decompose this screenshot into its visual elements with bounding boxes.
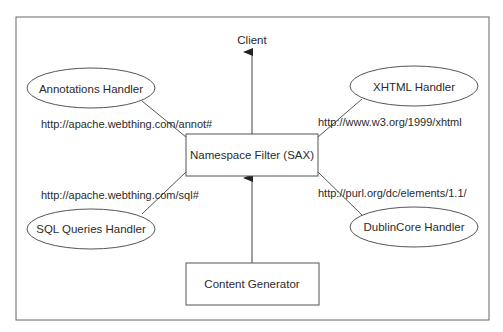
dublincore-handler-node: DublinCore Handler [350, 207, 478, 247]
sql-namespace-url: http://apache.webthing.com/sql# [41, 189, 200, 201]
dublincore-handler-label: DublinCore Handler [364, 221, 465, 233]
annotations-handler-label: Annotations Handler [39, 83, 143, 95]
xhtml-namespace-url: http://www.w3.org/1999/xhtml [318, 116, 462, 128]
client-label: Client [237, 34, 267, 46]
xhtml-handler-node: XHTML Handler [350, 66, 478, 106]
generator-label: Content Generator [204, 278, 299, 290]
annotations-handler-node: Annotations Handler [27, 68, 155, 108]
content-generator-node: Content Generator [186, 263, 319, 305]
xhtml-handler-label: XHTML Handler [373, 81, 455, 93]
annotations-namespace-url: http://apache.webthing.com/annot# [41, 118, 213, 130]
filter-label: Namespace Filter (SAX) [190, 149, 314, 161]
namespace-filter-diagram: Client Namespace Filter (SAX) Content Ge… [0, 0, 503, 332]
dublincore-namespace-url: http://purl.org/dc/elements/1.1/ [318, 187, 468, 199]
namespace-filter-node: Namespace Filter (SAX) [186, 134, 318, 176]
sql-queries-handler-label: SQL Queries Handler [36, 223, 146, 235]
sql-queries-handler-node: SQL Queries Handler [27, 209, 155, 249]
